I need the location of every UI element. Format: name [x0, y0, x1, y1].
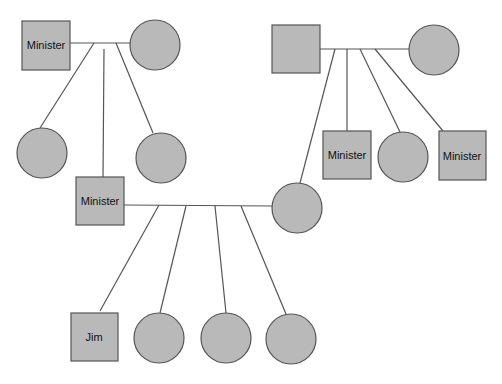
genogram-diagram: Minister Minister Minister Minister Jim — [0, 0, 502, 384]
female-circle-gp1-child1 — [17, 128, 67, 178]
marriage-line — [124, 205, 272, 206]
node-label: Minister — [27, 39, 66, 51]
female-circle-gp1-child2 — [136, 133, 186, 183]
female-circle-spouse — [272, 183, 322, 233]
descent-line — [215, 206, 226, 313]
node-label: Minister — [443, 150, 482, 162]
node-jim: Jim — [71, 313, 118, 361]
node-gp1-child-male: Minister — [76, 177, 124, 225]
family-3-connectors — [100, 205, 286, 314]
node-gp2-child-male1: Minister — [323, 131, 371, 179]
node-label: Minister — [81, 195, 120, 207]
female-circle-child1 — [134, 313, 184, 363]
female-circle-gp2 — [409, 25, 459, 75]
descent-line — [103, 49, 104, 177]
node-label: Jim — [85, 331, 102, 343]
female-circle-child2 — [201, 313, 251, 363]
descent-line — [360, 49, 400, 132]
female-circle-child3 — [266, 314, 316, 364]
female-circle-gp1 — [130, 20, 180, 70]
female-circle-gp2-child — [378, 132, 428, 182]
male-square-gp2 — [272, 25, 320, 73]
descent-line — [160, 206, 186, 313]
node-gp2-child-male2: Minister — [439, 131, 486, 180]
node-label: Minister — [328, 149, 367, 161]
node-gp1-male: Minister — [22, 21, 70, 70]
